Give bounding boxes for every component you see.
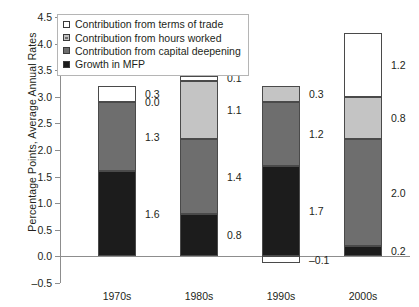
y-tick-label: 0.0 <box>37 250 52 262</box>
x-category-label: 2000s <box>349 290 378 302</box>
y-tick-label: –0.5 <box>32 277 52 289</box>
legend-label: Contribution from capital deepening <box>75 46 241 57</box>
chart-legend: Contribution from terms of tradeContribu… <box>57 14 249 76</box>
bar-segment[interactable] <box>98 102 136 171</box>
bar-value-label: 0.8 <box>227 229 242 241</box>
y-tick-label: 2.5 <box>37 117 52 129</box>
bar-value-label: 2.0 <box>391 187 406 199</box>
y-axis-title: Percentage Points, Average Annual Rates <box>26 2 38 262</box>
bar-value-label: 1.3 <box>145 131 160 143</box>
bar-value-label: 1.2 <box>309 128 324 140</box>
bar-value-label: 0.3 <box>309 88 324 100</box>
legend-swatch-icon <box>63 34 70 41</box>
bar-segment[interactable] <box>180 214 218 257</box>
bar-value-label: 1.7 <box>309 205 324 217</box>
y-tick-label: 2.0 <box>37 144 52 156</box>
bar-value-label: 0.0 <box>145 96 160 108</box>
bar-segment[interactable] <box>344 139 382 245</box>
bar-segment[interactable] <box>344 97 382 140</box>
legend-label: Contribution from hours worked <box>75 33 221 44</box>
bar-segment[interactable] <box>344 246 382 257</box>
legend-label: Growth in MFP <box>75 59 145 70</box>
y-tick-mark <box>55 283 60 284</box>
x-category-label: 1980s <box>185 290 214 302</box>
bar-value-label: 1.4 <box>227 171 242 183</box>
legend-swatch-icon <box>63 47 70 54</box>
bar-segment[interactable] <box>344 33 382 97</box>
x-category-label: 1970s <box>103 290 132 302</box>
bar-segment[interactable] <box>98 171 136 256</box>
y-tick-mark <box>55 256 60 257</box>
y-tick-label: 4.5 <box>37 11 52 23</box>
bar-value-label: 1.6 <box>145 208 160 220</box>
bar-segment[interactable] <box>262 86 300 102</box>
y-tick-label: 3.0 <box>37 91 52 103</box>
bar-value-label: 0.2 <box>391 245 406 257</box>
bar-segment[interactable] <box>262 102 300 166</box>
legend-item[interactable]: Growth in MFP <box>63 58 241 71</box>
y-tick-label: 1.5 <box>37 171 52 183</box>
bar-group[interactable]: 1.20.82.00.2 <box>344 17 382 283</box>
x-category-label: 1990s <box>267 290 296 302</box>
bar-value-label: 1.1 <box>227 104 242 116</box>
y-tick-mark <box>55 123 60 124</box>
legend-swatch-icon <box>63 61 70 68</box>
y-tick-mark <box>55 150 60 151</box>
y-tick-label: 0.5 <box>37 224 52 236</box>
y-tick-label: 3.5 <box>37 64 52 76</box>
y-tick-mark <box>55 97 60 98</box>
bar-segment[interactable] <box>180 139 218 213</box>
y-tick-label: 1.0 <box>37 197 52 209</box>
legend-label: Contribution from terms of trade <box>75 19 223 30</box>
y-tick-mark <box>55 177 60 178</box>
legend-item[interactable]: Contribution from terms of trade <box>63 18 241 31</box>
legend-swatch-icon <box>63 21 70 28</box>
y-tick-label: 4.0 <box>37 38 52 50</box>
bar-value-label: –0.1 <box>309 254 329 266</box>
legend-item[interactable]: Contribution from hours worked <box>63 31 241 44</box>
legend-item[interactable]: Contribution from capital deepening <box>63 44 241 57</box>
bar-value-label: 1.2 <box>391 59 406 71</box>
y-tick-mark <box>55 203 60 204</box>
bar-segment-negative[interactable] <box>262 256 300 263</box>
stacked-bar-chart: Percentage Points, Average Annual Rates … <box>0 0 419 307</box>
bar-value-label: 0.8 <box>391 112 406 124</box>
bar-segment[interactable] <box>180 81 218 140</box>
bar-segment[interactable] <box>262 166 300 256</box>
y-tick-mark <box>55 230 60 231</box>
bar-group[interactable]: –0.10.31.21.7 <box>262 17 300 283</box>
